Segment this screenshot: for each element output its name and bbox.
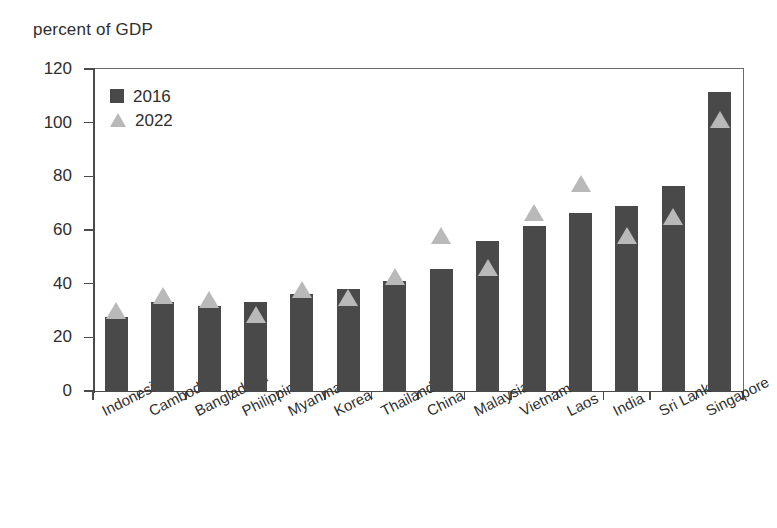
marker-2022-bangladesh (199, 291, 219, 308)
y-tick-60 (84, 229, 93, 231)
x-axis-label-india: India (610, 389, 647, 419)
bar-2016-china (430, 269, 453, 391)
marker-2022-malaysia (478, 259, 498, 276)
bar-2016-vietnam (523, 226, 546, 391)
legend-label-2016: 2016 (133, 88, 171, 105)
marker-2022-china (431, 227, 451, 244)
bar-2016-indonesia (105, 317, 128, 391)
marker-2022-philippines (246, 306, 266, 323)
bar-2016-thailand (383, 281, 406, 391)
y-tick-80 (84, 176, 93, 178)
marker-2022-myanmar (292, 281, 312, 298)
y-tick-40 (84, 283, 93, 285)
y-tick-label-60: 60 (53, 220, 72, 240)
gdp-debt-bar-chart: percent of GDP 020406080100120 Indonesia… (0, 0, 777, 528)
y-axis-line (93, 68, 95, 393)
bar-2016-singapore (708, 92, 731, 391)
y-tick-20 (84, 337, 93, 339)
legend-square-icon (110, 89, 124, 103)
y-tick-100 (84, 122, 93, 124)
y-tick-label-0: 0 (63, 381, 72, 401)
y-tick-label-120: 120 (44, 59, 72, 79)
marker-2022-korea (338, 289, 358, 306)
y-tick-label-100: 100 (44, 113, 72, 133)
bar-2016-laos (569, 213, 592, 391)
marker-2022-singapore (710, 111, 730, 128)
y-tick-label-40: 40 (53, 274, 72, 294)
plot-border-right (743, 68, 744, 392)
y-axis-title: percent of GDP (33, 20, 153, 40)
x-tick-0 (92, 391, 94, 400)
legend-item-2016: 2016 (110, 84, 173, 108)
legend-label-2022: 2022 (135, 112, 173, 129)
marker-2022-laos (571, 175, 591, 192)
marker-2022-thailand (385, 268, 405, 285)
y-tick-label-80: 80 (53, 166, 72, 186)
x-tick-12 (649, 391, 651, 400)
chart-legend: 2016 2022 (110, 84, 173, 132)
bar-2016-bangladesh (198, 306, 221, 391)
marker-2022-sri-lanka (663, 208, 683, 225)
marker-2022-indonesia (106, 302, 126, 319)
y-tick-120 (84, 68, 93, 70)
y-tick-label-20: 20 (53, 327, 72, 347)
marker-2022-india (617, 227, 637, 244)
legend-item-2022: 2022 (110, 108, 173, 132)
bar-2016-myanmar (290, 294, 313, 391)
x-tick-11 (603, 391, 605, 400)
marker-2022-vietnam (524, 204, 544, 221)
legend-triangle-icon (110, 113, 126, 127)
bar-2016-cambodia (151, 302, 174, 391)
plot-border-top (93, 68, 744, 69)
marker-2022-cambodia (153, 287, 173, 304)
